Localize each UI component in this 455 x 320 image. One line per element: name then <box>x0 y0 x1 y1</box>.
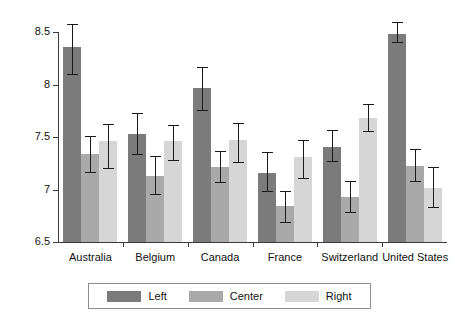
error-bar-cap <box>298 178 309 179</box>
x-axis-category-label: Australia <box>58 252 123 263</box>
error-bar-cap <box>410 149 421 150</box>
error-bar-cap <box>150 194 161 195</box>
legend-swatch <box>285 291 319 302</box>
error-bar-cap <box>168 160 179 161</box>
error-bar <box>173 125 174 161</box>
error-bar <box>332 130 333 161</box>
error-bar-cap <box>280 191 291 192</box>
error-bar-cap <box>132 113 143 114</box>
legend-label: Right <box>326 290 352 302</box>
x-axis-category-label: Switzerland <box>317 252 382 263</box>
error-bar <box>72 24 73 74</box>
error-bar <box>350 181 351 211</box>
error-bar <box>202 67 203 110</box>
error-bar-cap <box>345 181 356 182</box>
error-bar-cap <box>428 207 439 208</box>
bar-chart-figure: 6.577.588.5AustraliaBelgiumCanadaFranceS… <box>0 0 455 320</box>
y-axis-tick-label: 7 <box>10 184 50 195</box>
error-bar-cap <box>215 151 226 152</box>
error-bar-cap <box>103 124 114 125</box>
bar <box>63 47 81 242</box>
legend-label: Center <box>230 290 263 302</box>
error-bar <box>303 140 304 178</box>
x-axis-tick <box>123 242 124 247</box>
error-bar <box>415 149 416 181</box>
error-bar-cap <box>85 172 96 173</box>
y-axis-tick <box>53 32 58 33</box>
error-bar-cap <box>327 161 338 162</box>
legend-label: Left <box>148 290 166 302</box>
error-bar <box>90 136 91 172</box>
y-axis-tick <box>53 190 58 191</box>
legend-entry: Right <box>285 290 352 302</box>
error-bar-cap <box>363 131 374 132</box>
error-bar-cap <box>85 136 96 137</box>
error-bar-cap <box>280 222 291 223</box>
error-bar-cap <box>67 74 78 75</box>
error-bar <box>433 167 434 208</box>
error-bar-cap <box>233 123 244 124</box>
x-axis-tick <box>253 242 254 247</box>
error-bar <box>155 156 156 194</box>
error-bar-cap <box>327 130 338 131</box>
error-bar <box>267 152 268 191</box>
error-bar <box>397 22 398 42</box>
y-axis-tick-label: 8.5 <box>10 26 50 37</box>
error-bar-cap <box>103 168 114 169</box>
x-axis-tick <box>188 242 189 247</box>
y-axis-tick-label: 8 <box>10 79 50 90</box>
x-axis-category-label: Belgium <box>123 252 188 263</box>
error-bar-cap <box>132 154 143 155</box>
bar <box>359 118 377 242</box>
y-axis-tick-label: 6.5 <box>10 236 50 247</box>
error-bar-cap <box>150 156 161 157</box>
error-bar <box>368 104 369 131</box>
error-bar <box>108 124 109 168</box>
error-bar <box>137 113 138 154</box>
bar <box>193 88 211 242</box>
error-bar-cap <box>168 125 179 126</box>
error-bar-cap <box>233 162 244 163</box>
error-bar-cap <box>215 182 226 183</box>
x-axis-category-label: Canada <box>188 252 253 263</box>
error-bar-cap <box>363 104 374 105</box>
x-axis-tick <box>317 242 318 247</box>
legend-entry: Left <box>107 290 166 302</box>
y-axis-line <box>58 32 59 242</box>
error-bar-cap <box>428 167 439 168</box>
error-bar <box>220 151 221 182</box>
error-bar-cap <box>410 181 421 182</box>
error-bar <box>285 191 286 222</box>
plot-area: 6.577.588.5AustraliaBelgiumCanadaFranceS… <box>0 0 455 320</box>
y-axis-tick <box>53 137 58 138</box>
error-bar-cap <box>392 22 403 23</box>
bar <box>388 34 406 242</box>
x-axis-category-label: United States <box>382 252 447 263</box>
error-bar-cap <box>262 191 273 192</box>
error-bar-cap <box>197 110 208 111</box>
error-bar-cap <box>67 24 78 25</box>
legend-swatch <box>189 291 223 302</box>
error-bar <box>238 123 239 163</box>
x-axis-tick <box>382 242 383 247</box>
error-bar-cap <box>345 212 356 213</box>
error-bar-cap <box>392 42 403 43</box>
error-bar-cap <box>298 140 309 141</box>
y-axis-tick <box>53 85 58 86</box>
y-axis-tick-label: 7.5 <box>10 131 50 142</box>
legend-entry: Center <box>189 290 263 302</box>
error-bar-cap <box>262 152 273 153</box>
chart-legend: LeftCenterRight <box>88 283 371 309</box>
x-axis-category-label: France <box>253 252 318 263</box>
legend-swatch <box>107 291 141 302</box>
error-bar-cap <box>197 67 208 68</box>
